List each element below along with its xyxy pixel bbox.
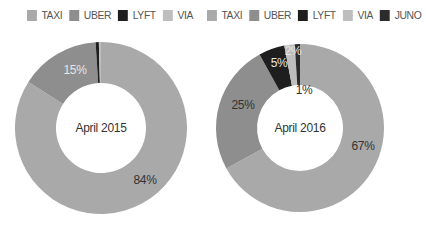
- pct-label-juno: 1%: [296, 83, 313, 97]
- pct-label-taxi: 84%: [134, 173, 158, 187]
- center-label: April 2015: [75, 121, 127, 135]
- pct-label-taxi: 67%: [352, 139, 376, 153]
- pct-label-uber: 15%: [64, 63, 88, 77]
- center-label: April 2016: [274, 121, 326, 135]
- donut-2015: April 201584%15%: [15, 42, 187, 214]
- pct-label-uber: 25%: [232, 98, 256, 112]
- pct-label-lyft: 5%: [271, 56, 288, 70]
- donut-2016: April 201667%25%5%2%1%: [216, 44, 384, 212]
- pct-label-via: 2%: [285, 44, 302, 58]
